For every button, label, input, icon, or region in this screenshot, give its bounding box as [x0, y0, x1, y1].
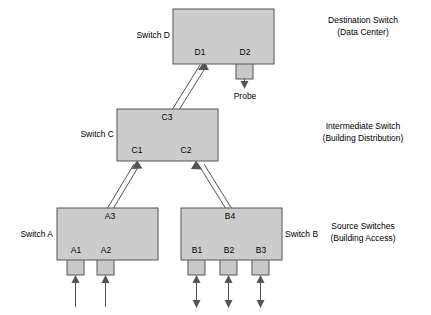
port-stub-b1 — [188, 259, 205, 275]
port-label-d2: D2 — [234, 47, 256, 57]
port-label-a2: A2 — [95, 245, 117, 255]
tier-intermediate-line2: (Building Distribution) — [296, 132, 430, 144]
switch-c-label: Switch C — [66, 129, 114, 139]
port-label-c3: C3 — [156, 112, 178, 122]
tier-label-source: Source Switches (Building Access) — [300, 220, 426, 244]
probe-label: Probe — [226, 91, 264, 101]
port-label-d1: D1 — [189, 47, 211, 57]
link-a2-source — [102, 275, 110, 307]
tier-source-line2: (Building Access) — [300, 232, 426, 244]
port-stub-a1 — [67, 259, 84, 275]
port-stub-b3 — [252, 259, 269, 275]
tier-label-intermediate: Intermediate Switch (Building Distributi… — [296, 120, 430, 144]
link-a1-source — [72, 275, 80, 307]
tier-destination-line2: (Data Center) — [300, 26, 426, 38]
link-b3-source — [257, 275, 265, 308]
port-label-a3: A3 — [99, 211, 121, 221]
link-b2-source — [225, 275, 233, 308]
link-c3-d1 — [172, 62, 209, 111]
network-diagram: Switch D D1 D2 Probe Switch C C3 C1 C2 S… — [0, 0, 431, 315]
tier-label-destination: Destination Switch (Data Center) — [300, 14, 426, 38]
port-label-b2: B2 — [218, 245, 240, 255]
port-stub-a2 — [97, 259, 114, 275]
port-label-b3: B3 — [250, 245, 272, 255]
link-a3-c1 — [107, 161, 143, 210]
link-b4-c2 — [191, 161, 232, 210]
link-d2-probe — [241, 78, 249, 89]
switch-a-label: Switch A — [8, 229, 53, 239]
diagram-canvas — [0, 0, 431, 315]
tier-intermediate-line1: Intermediate Switch — [296, 120, 430, 132]
tier-destination-line1: Destination Switch — [300, 14, 426, 26]
port-label-c2: C2 — [175, 145, 197, 155]
switch-d-label: Switch D — [122, 30, 170, 40]
port-label-b1: B1 — [186, 245, 208, 255]
tier-source-line1: Source Switches — [300, 220, 426, 232]
link-b1-source — [193, 275, 201, 308]
port-label-b4: B4 — [219, 211, 241, 221]
port-stub-d2 — [236, 63, 253, 79]
port-label-a1: A1 — [65, 245, 87, 255]
port-label-c1: C1 — [126, 145, 148, 155]
port-stub-b2 — [220, 259, 237, 275]
